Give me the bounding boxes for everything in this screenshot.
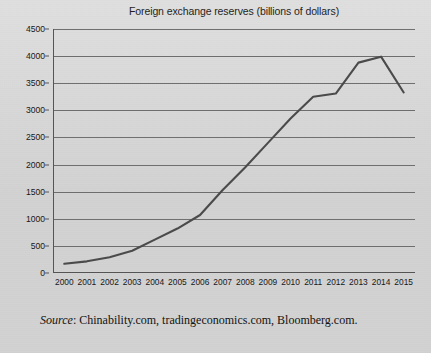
y-tick-label: 3000 — [26, 105, 45, 115]
source-label: Source — [40, 313, 73, 327]
x-tick-label: 2013 — [349, 277, 368, 287]
y-tick-label: 1500 — [26, 187, 45, 197]
y-tick-label: 3500 — [26, 78, 45, 88]
x-tick-label: 2003 — [123, 277, 142, 287]
x-axis-tick-labels: 2000200120022003200420052006200720082009… — [53, 277, 415, 291]
y-tick-mark — [45, 110, 49, 111]
x-tick-label: 2001 — [78, 277, 97, 287]
y-tick-mark — [45, 56, 49, 57]
x-tick-label: 2014 — [372, 277, 391, 287]
x-tick-label: 2006 — [191, 277, 210, 287]
source-text: Chinability.com, tradingeconomics.com, B… — [79, 313, 357, 327]
y-tick-label: 2000 — [26, 160, 45, 170]
data-series-line — [53, 29, 415, 273]
y-tick-mark — [45, 218, 49, 219]
x-tick-label: 2005 — [168, 277, 187, 287]
y-tick-label: 2500 — [26, 132, 45, 142]
source-note: Source: Chinability.com, tradingeconomic… — [40, 313, 358, 328]
y-tick-label: 1000 — [26, 214, 45, 224]
y-tick-mark — [45, 245, 49, 246]
x-tick-label: 2012 — [326, 277, 345, 287]
x-tick-label: 2008 — [236, 277, 255, 287]
y-tick-label: 500 — [31, 241, 45, 251]
chart-figure: Foreign exchange reserves (billions of d… — [0, 0, 431, 353]
x-tick-label: 2002 — [100, 277, 119, 287]
chart-title: Foreign exchange reserves (billions of d… — [53, 5, 415, 17]
y-tick-mark — [45, 164, 49, 165]
y-tick-mark — [45, 29, 49, 30]
x-tick-label: 2015 — [394, 277, 413, 287]
y-tick-mark — [45, 83, 49, 84]
x-tick-label: 2009 — [259, 277, 278, 287]
x-tick-label: 2004 — [145, 277, 164, 287]
x-tick-label: 2000 — [55, 277, 74, 287]
x-tick-label: 2011 — [304, 277, 322, 287]
y-tick-mark — [45, 137, 49, 138]
plot-area — [53, 29, 415, 273]
y-tick-label: 4500 — [26, 24, 45, 34]
y-axis-tick-labels: 050010001500200025003000350040004500 — [0, 29, 49, 273]
y-tick-mark — [45, 191, 49, 192]
x-tick-label: 2010 — [281, 277, 300, 287]
y-tick-mark — [45, 273, 49, 274]
y-tick-label: 4000 — [26, 51, 45, 61]
x-tick-label: 2007 — [213, 277, 232, 287]
